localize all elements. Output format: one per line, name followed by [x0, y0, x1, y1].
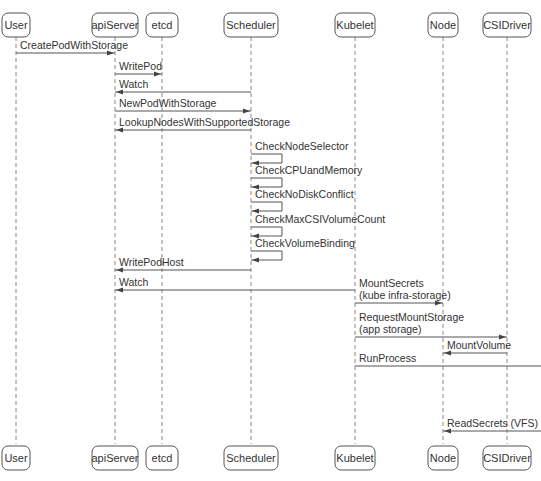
message: NewPodWithStorage [115, 97, 251, 114]
arrowhead [435, 301, 442, 306]
message-label: WritePodHost [119, 256, 184, 268]
actor-kubelet-top: Kubelet [335, 13, 375, 37]
message-label: CheckMaxCSIVolumeCount [255, 213, 385, 225]
actor-csidriver-bottom: CSIDriver [483, 446, 531, 470]
message: Watch [115, 78, 251, 95]
message-label: CheckVolumeBinding [255, 237, 355, 249]
message: CheckMaxCSIVolumeCount [251, 213, 385, 239]
actor-kubelet-bottom: Kubelet [335, 446, 375, 470]
actor-label: etcd [152, 452, 173, 464]
message: WritePod [115, 60, 162, 77]
arrowhead [444, 351, 451, 356]
messages: CreatePodWithStorageWritePodWatchNewPodW… [16, 39, 541, 434]
arrowhead [116, 90, 123, 95]
actor-etcd-bottom: etcd [146, 446, 178, 470]
message-arrow [251, 202, 282, 211]
message: MountSecrets(kube infra-storage) [355, 277, 451, 306]
message: RequestMountStorage(app storage) [355, 311, 507, 340]
actor-node-top: Node [428, 13, 458, 37]
message: CheckNoDiskConflict [251, 188, 354, 214]
actor-user-top: User [2, 13, 30, 37]
actors-bottom: UserapiServeretcdSchedulerKubeletNodeCSI… [2, 446, 531, 470]
message: CreatePodWithStorage [16, 39, 128, 56]
actor-label: apiServer [91, 19, 138, 31]
actor-label: apiServer [91, 452, 138, 464]
arrowhead [116, 268, 123, 273]
actor-label: CSIDriver [483, 19, 531, 31]
message-label: CheckNodeSelector [255, 140, 349, 152]
message-label: NewPodWithStorage [119, 97, 217, 109]
message-label: ReadSecrets (VFS) [447, 417, 538, 429]
message-label: (app storage) [359, 323, 421, 335]
actor-node-bottom: Node [428, 446, 458, 470]
actor-csidriver-top: CSIDriver [483, 13, 531, 37]
message: WritePodHost [115, 256, 251, 273]
message-arrow [251, 227, 282, 236]
message-label: CheckNoDiskConflict [255, 188, 354, 200]
actors-top: UserapiServeretcdSchedulerKubeletNodeCSI… [2, 13, 531, 37]
actor-label: User [4, 452, 28, 464]
actor-label: CSIDriver [483, 452, 531, 464]
message-label: (kube infra-storage) [359, 289, 451, 301]
message-label: RunProcess [359, 352, 416, 364]
arrowhead [116, 128, 123, 133]
actor-label: Scheduler [226, 19, 276, 31]
message-label: RequestMountStorage [359, 311, 464, 323]
message-label: MountVolume [447, 339, 511, 351]
message-label: CheckCPUandMemory [255, 164, 363, 176]
arrowhead [444, 429, 451, 434]
message: CheckVolumeBinding [251, 237, 355, 263]
message-arrow [251, 178, 282, 187]
actor-label: Node [430, 452, 456, 464]
message-label: MountSecrets [359, 277, 424, 289]
message: CheckNodeSelector [251, 140, 349, 166]
message-label: LookupNodesWithSupportedStorage [119, 116, 290, 128]
actor-user-bottom: User [2, 446, 30, 470]
actor-label: Scheduler [226, 452, 276, 464]
arrowhead [107, 51, 114, 56]
actor-etcd-top: etcd [146, 13, 178, 37]
actor-label: User [4, 19, 28, 31]
arrowhead [154, 72, 161, 77]
message: MountVolume [443, 339, 511, 356]
actor-scheduler-top: Scheduler [224, 13, 278, 37]
actor-apiServer-top: apiServer [91, 13, 138, 37]
arrowhead [116, 288, 123, 293]
message: CheckCPUandMemory [251, 164, 363, 190]
actor-label: Node [430, 19, 456, 31]
arrowhead [243, 109, 250, 114]
actor-label: Kubelet [336, 19, 373, 31]
message-arrow [251, 251, 282, 260]
message: Watch [115, 276, 355, 293]
actor-label: Kubelet [336, 452, 373, 464]
message-arrow [251, 154, 282, 163]
message: LookupNodesWithSupportedStorage [115, 116, 290, 133]
message-label: Watch [119, 78, 149, 90]
message: ReadSecrets (VFS) [443, 417, 541, 434]
arrowhead [252, 258, 259, 263]
actor-apiServer-bottom: apiServer [91, 446, 138, 470]
message-label: CreatePodWithStorage [20, 39, 128, 51]
message-label: Watch [119, 276, 149, 288]
actor-label: etcd [152, 19, 173, 31]
message-label: WritePod [119, 60, 162, 72]
sequence-diagram: CreatePodWithStorageWritePodWatchNewPodW… [0, 0, 541, 481]
actor-scheduler-bottom: Scheduler [224, 446, 278, 470]
